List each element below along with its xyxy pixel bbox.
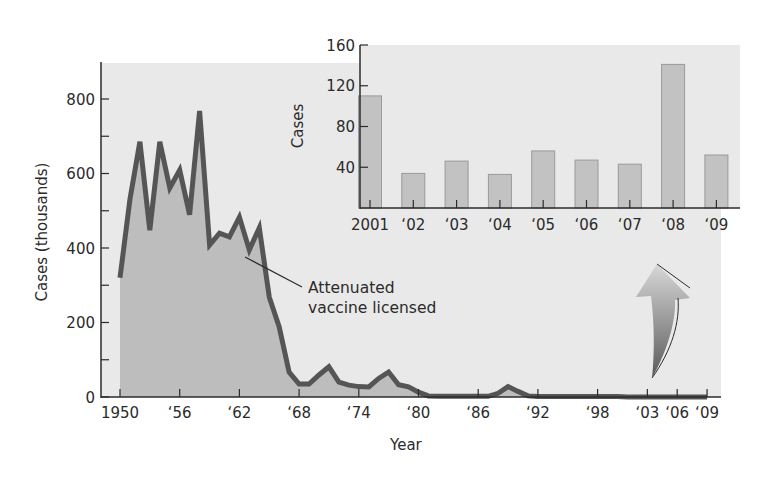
- x-tick-label: ‘06: [665, 404, 689, 422]
- y-tick-label: 600: [66, 165, 95, 183]
- x-tick-label: ‘86: [466, 404, 490, 422]
- y-axis-title: Cases (thousands): [33, 163, 51, 302]
- figure: 0200400600800 1950‘56‘62‘68‘74‘80‘86‘92‘…: [0, 0, 766, 481]
- x-tick-label: 1950: [101, 404, 139, 422]
- measles-cases-chart: 0200400600800 1950‘56‘62‘68‘74‘80‘86‘92‘…: [0, 0, 766, 481]
- x-tick-label: ‘03: [635, 404, 659, 422]
- annotation-text-line1: Attenuated: [308, 279, 395, 297]
- inset-x-tick-label: ‘04: [488, 216, 512, 234]
- inset-x-tick-label: ‘09: [704, 216, 728, 234]
- inset-x-tick-label: ‘06: [575, 216, 599, 234]
- inset-bar: [359, 96, 382, 208]
- inset-bar: [662, 64, 685, 208]
- inset-y-tick-label: 160: [326, 37, 355, 55]
- inset-y-axis-title: Cases: [289, 104, 307, 149]
- inset-x-tick-label: ‘02: [401, 216, 425, 234]
- x-tick-label: ‘09: [695, 404, 719, 422]
- inset-y-tick-label: 40: [336, 159, 355, 177]
- x-tick-label: ‘92: [526, 404, 550, 422]
- x-tick-label: ‘80: [407, 404, 431, 422]
- annotation-text-line2: vaccine licensed: [308, 299, 436, 317]
- inset-x-tick-label: ‘07: [618, 216, 642, 234]
- inset-x-tick-label: ‘03: [445, 216, 469, 234]
- x-tick-label: ‘68: [287, 404, 311, 422]
- x-tick-label: ‘56: [168, 404, 192, 422]
- inset-y-tick-label: 120: [326, 77, 355, 95]
- x-axis-title: Year: [389, 436, 423, 454]
- x-tick-label: ‘62: [227, 404, 251, 422]
- y-tick-label: 200: [66, 314, 95, 332]
- inset-bar: [532, 151, 555, 208]
- inset-x-tick-label: ‘08: [661, 216, 685, 234]
- y-tick-label: 800: [66, 91, 95, 109]
- y-tick-label: 400: [66, 240, 95, 258]
- inset-x-tick-label: 2001: [351, 216, 389, 234]
- x-tick-label: ‘74: [347, 404, 371, 422]
- x-tick-label: ‘98: [586, 404, 610, 422]
- inset-y-tick-label: 80: [336, 118, 355, 136]
- inset-x-tick-label: ‘05: [531, 216, 555, 234]
- y-tick-label: 0: [85, 389, 95, 407]
